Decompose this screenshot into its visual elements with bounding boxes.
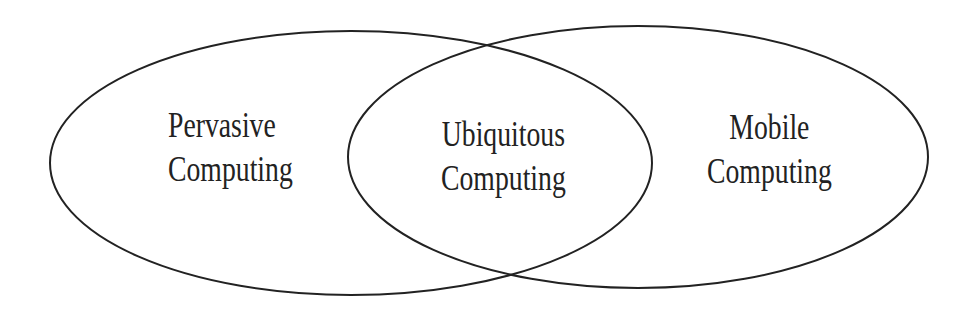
- venn-diagram: Pervasive Computing Ubiquitous Computing…: [0, 0, 973, 316]
- mobile-label-line2: Computing: [707, 149, 832, 193]
- mobile-computing-label: Mobile Computing: [707, 105, 832, 193]
- pervasive-label-line2: Computing: [168, 147, 293, 191]
- ubiquitous-computing-label: Ubiquitous Computing: [441, 112, 566, 200]
- ubiquitous-label-line1: Ubiquitous: [441, 112, 566, 156]
- pervasive-label-line1: Pervasive: [168, 103, 293, 147]
- ubiquitous-label-line2: Computing: [441, 156, 566, 200]
- mobile-label-line1: Mobile: [707, 105, 832, 149]
- mobile-computing-ellipse: [348, 26, 928, 288]
- pervasive-computing-label: Pervasive Computing: [168, 103, 293, 191]
